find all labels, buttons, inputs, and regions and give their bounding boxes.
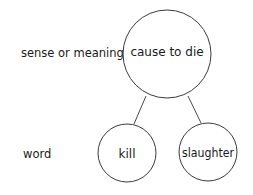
word-node-kill-label: kill bbox=[119, 147, 136, 161]
word-node-slaughter-label: slaughter bbox=[182, 146, 234, 160]
semantic-diagram: sense or meaning word cause to die kill … bbox=[0, 0, 253, 195]
edge-sense-to-slaughter bbox=[188, 96, 201, 123]
edge-sense-to-kill bbox=[134, 96, 146, 124]
sense-node-label: cause to die bbox=[130, 45, 203, 59]
row-label-word: word bbox=[23, 147, 51, 161]
row-label-sense: sense or meaning bbox=[21, 46, 124, 60]
